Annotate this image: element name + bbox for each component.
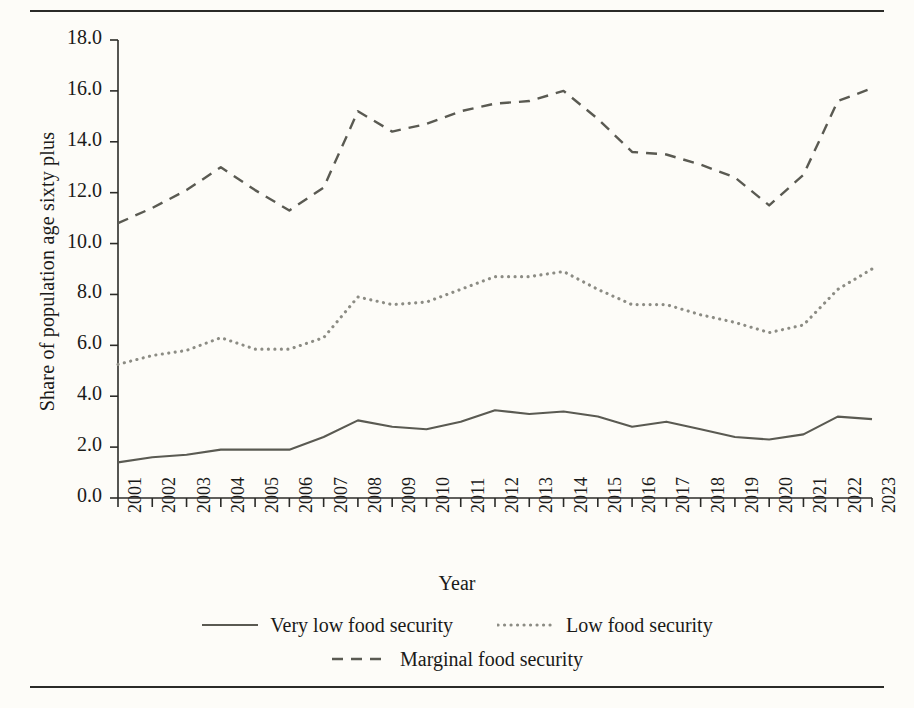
legend-item[interactable]: Marginal food security bbox=[331, 648, 583, 671]
chart-legend: Very low food securityLow food securityM… bbox=[0, 608, 914, 676]
legend-swatch-dotted bbox=[497, 618, 555, 632]
y-tick-marks bbox=[110, 40, 118, 498]
legend-row: Very low food securityLow food security bbox=[0, 608, 914, 642]
x-tick-marks bbox=[118, 498, 872, 507]
legend-label: Very low food security bbox=[270, 614, 453, 637]
series-line-low-food-security bbox=[118, 269, 872, 364]
line-chart-plot bbox=[0, 0, 914, 708]
legend-swatch-dashed bbox=[331, 652, 389, 666]
series-lines bbox=[118, 88, 872, 462]
axis-lines bbox=[118, 40, 872, 498]
legend-label: Marginal food security bbox=[400, 648, 583, 671]
chart-page: Share of population age sixty plus Year … bbox=[0, 0, 914, 708]
legend-item[interactable]: Very low food security bbox=[201, 614, 453, 637]
series-line-marginal-food-security bbox=[118, 88, 872, 223]
legend-swatch-solid bbox=[201, 618, 259, 632]
legend-row: Marginal food security bbox=[0, 642, 914, 676]
legend-item[interactable]: Low food security bbox=[497, 614, 713, 637]
legend-label: Low food security bbox=[566, 614, 713, 637]
series-line-very-low-food-security bbox=[118, 410, 872, 462]
